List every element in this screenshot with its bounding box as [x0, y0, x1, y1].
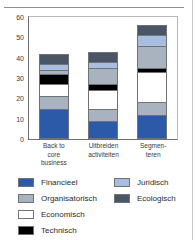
bar-segment — [137, 35, 167, 45]
bar-segment — [137, 25, 167, 35]
bar-slot — [31, 17, 75, 139]
legend-color-swatch — [114, 194, 130, 203]
x-axis-labels: Back tocorebusinessUitbreidenactiviteite… — [29, 142, 178, 168]
legend-item[interactable]: Ecologisch — [114, 190, 176, 206]
bar-segment — [88, 68, 118, 84]
x-axis-label-line: Uitbreiden — [79, 142, 128, 151]
bar-segment — [39, 54, 69, 64]
bar-group — [29, 17, 177, 139]
legend-column-right: JuridischEcologisch — [114, 174, 176, 206]
bar-segment — [39, 96, 69, 108]
bar-segment — [137, 102, 167, 114]
legend-color-swatch — [18, 194, 34, 203]
y-axis-tick-label: 10 — [16, 115, 24, 122]
figure: 0102030405060 Back tocorebusinessUitbrei… — [0, 0, 195, 240]
bar-segment — [88, 52, 118, 62]
legend-item-label: Technisch — [41, 226, 77, 235]
stacked-bar[interactable] — [137, 25, 167, 139]
legend-color-swatch — [18, 210, 34, 219]
legend-item-label: Financieel — [41, 178, 77, 187]
y-axis-tick-label: 0 — [20, 136, 24, 143]
legend-item[interactable]: Financieel — [18, 174, 97, 190]
x-axis-category-label: Uitbreidenactiviteiten — [79, 142, 128, 168]
legend-item[interactable]: Technisch — [18, 222, 97, 238]
legend-item-label: Ecologisch — [137, 194, 176, 203]
legend-item[interactable]: Organisatorisch — [18, 190, 97, 206]
bar-segment — [137, 72, 167, 103]
top-divider — [4, 7, 184, 8]
legend-column-left: FinancieelOrganisatorischEconomischTechn… — [18, 174, 97, 238]
y-axis-tick-label: 60 — [16, 14, 24, 21]
y-axis: 0102030405060 — [6, 16, 28, 140]
legend-color-swatch — [18, 178, 34, 187]
right-divider — [192, 0, 193, 240]
x-axis-label-line: Segmen- — [129, 142, 178, 151]
bar-slot — [130, 17, 174, 139]
y-axis-tick-label: 30 — [16, 75, 24, 82]
x-axis-category-label: Back tocorebusiness — [29, 142, 78, 168]
stacked-bar[interactable] — [88, 52, 118, 139]
x-axis-label-line: business — [29, 159, 78, 168]
x-axis-label-line: Back to — [29, 142, 78, 151]
y-axis-tick-label: 20 — [16, 95, 24, 102]
legend-item-label: Juridisch — [137, 178, 169, 187]
bar-segment — [39, 84, 69, 96]
bar-segment — [88, 90, 118, 108]
bar-segment — [137, 115, 167, 139]
x-axis-label-line: core — [29, 151, 78, 160]
stacked-bar[interactable] — [39, 54, 69, 139]
x-axis-label-line: teren — [129, 151, 178, 160]
x-axis-label-line: activiteiten — [79, 151, 128, 160]
y-axis-tick-label: 50 — [16, 34, 24, 41]
bar-slot — [81, 17, 125, 139]
legend-item-label: Organisatorisch — [41, 194, 97, 203]
legend-item[interactable]: Juridisch — [114, 174, 176, 190]
y-axis-tick-label: 40 — [16, 54, 24, 61]
bar-segment — [39, 74, 69, 84]
x-axis-category-label: Segmen-teren — [129, 142, 178, 168]
legend-color-swatch — [114, 178, 130, 187]
bar-segment — [39, 109, 69, 140]
legend-color-swatch — [18, 226, 34, 235]
legend-item-label: Economisch — [41, 210, 85, 219]
bar-segment — [88, 121, 118, 139]
bar-segment — [137, 46, 167, 68]
legend-item[interactable]: Economisch — [18, 206, 97, 222]
plot-area: 0102030405060 — [6, 16, 178, 140]
bar-segment — [88, 109, 118, 121]
